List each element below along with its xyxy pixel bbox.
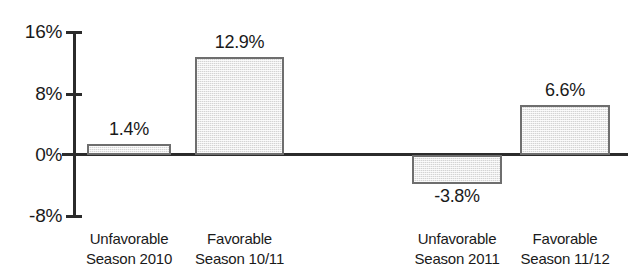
value-label-unfavorable-season-2011: -3.8% bbox=[412, 186, 502, 207]
bar-favorable-season-11-12 bbox=[520, 105, 610, 155]
category-label-line1: Favorable bbox=[188, 229, 291, 249]
category-label-line1: Unfavorable bbox=[79, 229, 179, 249]
y-tick-minus-8 bbox=[66, 215, 82, 218]
y-axis-label-16: 16% bbox=[0, 21, 62, 43]
bar-unfavorable-season-2010 bbox=[87, 144, 171, 155]
category-label-line2: Season 10/11 bbox=[188, 249, 291, 269]
bar-unfavorable-season-2011 bbox=[412, 155, 502, 184]
category-label-line2: Season 2011 bbox=[407, 249, 507, 269]
y-axis-line bbox=[73, 32, 76, 217]
category-label-favorable-season-10-11: Favorable Season 10/11 bbox=[188, 229, 291, 269]
category-label-unfavorable-season-2011: Unfavorable Season 2011 bbox=[407, 229, 507, 269]
category-label-line2: Season 2010 bbox=[79, 249, 179, 269]
y-axis-label-0: 0% bbox=[0, 144, 62, 166]
category-label-line2: Season 11/12 bbox=[513, 249, 617, 269]
category-label-line1: Favorable bbox=[513, 229, 617, 249]
y-tick-8 bbox=[66, 93, 82, 96]
category-label-favorable-season-11-12: Favorable Season 11/12 bbox=[513, 229, 617, 269]
value-label-unfavorable-season-2010: 1.4% bbox=[87, 119, 171, 140]
category-label-unfavorable-season-2010: Unfavorable Season 2010 bbox=[79, 229, 179, 269]
y-axis-label-minus-8: -8% bbox=[0, 205, 62, 227]
category-label-line1: Unfavorable bbox=[407, 229, 507, 249]
y-axis-label-8: 8% bbox=[0, 83, 62, 105]
value-label-favorable-season-10-11: 12.9% bbox=[193, 32, 286, 53]
bar-favorable-season-10-11 bbox=[195, 57, 284, 155]
y-tick-16 bbox=[66, 31, 82, 34]
y-tick-0 bbox=[62, 153, 82, 156]
bar-chart: 16% 8% 0% -8% 1.4% 12.9% -3.8% 6.6% Unfa… bbox=[0, 0, 635, 278]
value-label-favorable-season-11-12: 6.6% bbox=[520, 80, 610, 101]
